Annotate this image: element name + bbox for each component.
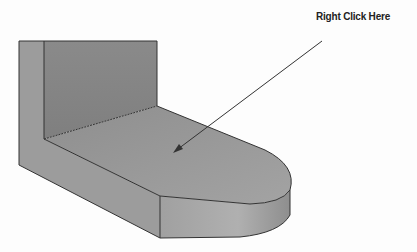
bracket-model bbox=[0, 0, 417, 252]
annotation-label: Right Click Here bbox=[316, 11, 390, 22]
cad-illustration: Right Click Here bbox=[0, 0, 417, 252]
pointer-arrow bbox=[173, 41, 322, 153]
